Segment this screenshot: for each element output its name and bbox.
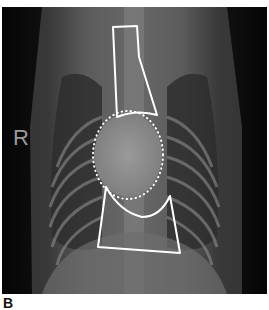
side-marker-R: R	[13, 125, 29, 150]
heart-silhouette	[94, 113, 162, 197]
radiograph-image: R	[2, 7, 267, 294]
panel-label: B	[3, 295, 13, 310]
